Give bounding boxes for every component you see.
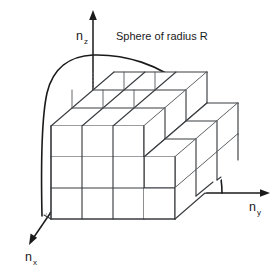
- sphere-octant-diagram: n z n y n x Sphere of radius R: [0, 0, 280, 268]
- axis-label-nz-sub: z: [84, 37, 88, 46]
- axis-label-nx-main: n: [25, 250, 32, 264]
- axis-label-nx-sub: x: [33, 258, 37, 267]
- axis-label-nz-main: n: [76, 29, 83, 43]
- axis-label-ny-main: n: [249, 200, 256, 214]
- axis-label-nx: n x: [25, 250, 37, 267]
- cube-front-faces-step1: [144, 157, 175, 188]
- cube-front-faces-main: [51, 157, 144, 219]
- figure-caption: Sphere of radius R: [116, 30, 208, 42]
- axis-label-nz: n z: [76, 29, 88, 46]
- axis-label-ny: n y: [249, 200, 261, 217]
- figure-container: n z n y n x Sphere of radius R: [0, 0, 280, 268]
- cube-front-faces-upper: [51, 126, 144, 157]
- cube-left-depth-faces: [44, 126, 51, 219]
- axis-label-ny-sub: y: [257, 208, 261, 217]
- cube-front-faces-lower-right: [144, 188, 175, 219]
